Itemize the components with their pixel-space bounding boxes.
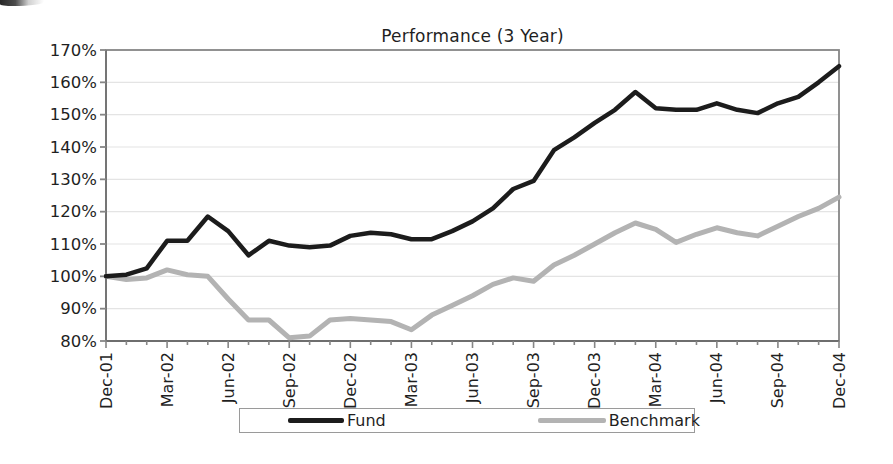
x-axis-label: Dec-04 — [830, 352, 849, 409]
x-axis-label: Sep-03 — [524, 352, 543, 408]
x-axis-label: Mar-04 — [646, 352, 665, 407]
x-axis-label: Dec-01 — [97, 352, 116, 409]
legend: Fund Benchmark — [239, 408, 695, 433]
x-axis-label: Dec-03 — [585, 352, 604, 409]
x-axis-label: Jun-03 — [463, 352, 482, 404]
y-axis-label: 120% — [50, 202, 97, 221]
y-axis-label: 100% — [50, 267, 97, 286]
y-axis-label: 80% — [60, 332, 97, 351]
legend-item-fund: Fund — [288, 411, 386, 430]
fund-line — [106, 66, 839, 276]
fund-line-sample — [288, 418, 344, 423]
x-axis-label: Jun-04 — [707, 352, 726, 404]
benchmark-line-sample — [538, 418, 606, 423]
y-axis-label: 110% — [50, 235, 97, 254]
y-axis-label: 140% — [50, 138, 97, 157]
legend-benchmark-label: Benchmark — [609, 411, 700, 430]
legend-fund-label: Fund — [347, 411, 386, 430]
x-axis-label: Mar-02 — [158, 352, 177, 407]
benchmark-line — [106, 197, 839, 338]
legend-item-benchmark: Benchmark — [538, 411, 700, 430]
y-axis-label: 150% — [50, 105, 97, 124]
x-axis-label: Sep-04 — [768, 352, 787, 408]
y-axis-label: 130% — [50, 170, 97, 189]
x-axis-label: Dec-02 — [341, 352, 360, 409]
y-axis-label: 90% — [60, 299, 97, 318]
x-axis-label: Mar-03 — [402, 352, 421, 407]
y-axis-label: 170% — [50, 41, 97, 60]
x-axis-label: Jun-02 — [219, 352, 238, 404]
performance-chart: 80%90%100%110%120%130%140%150%160%170%De… — [0, 0, 893, 464]
x-axis-label: Sep-02 — [280, 352, 299, 408]
chart-figure: Performance (3 Year) 80%90%100%110%120%1… — [0, 0, 893, 464]
y-axis-label: 160% — [50, 73, 97, 92]
